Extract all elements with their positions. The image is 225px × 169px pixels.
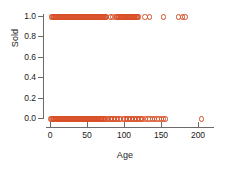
data-point bbox=[119, 14, 124, 19]
data-point bbox=[77, 116, 82, 121]
data-point bbox=[80, 116, 85, 121]
x-axis-tick bbox=[198, 122, 199, 128]
data-point bbox=[152, 116, 157, 121]
data-point bbox=[61, 116, 66, 121]
data-point bbox=[92, 116, 97, 121]
data-point bbox=[73, 14, 78, 19]
data-point bbox=[118, 14, 123, 19]
data-point bbox=[56, 116, 61, 121]
data-point bbox=[82, 116, 87, 121]
data-point bbox=[62, 14, 67, 19]
data-point bbox=[176, 14, 181, 19]
data-point bbox=[123, 14, 128, 19]
data-point bbox=[130, 14, 135, 19]
data-point bbox=[98, 14, 103, 19]
data-point bbox=[95, 14, 100, 19]
data-point bbox=[52, 14, 57, 19]
data-point bbox=[90, 14, 95, 19]
data-point bbox=[64, 116, 69, 121]
data-point bbox=[116, 14, 121, 19]
data-point bbox=[84, 14, 89, 19]
data-point bbox=[85, 14, 90, 19]
data-point bbox=[116, 116, 121, 121]
data-point bbox=[94, 14, 99, 19]
y-axis-tick bbox=[38, 77, 44, 78]
data-point bbox=[68, 14, 73, 19]
y-axis-tick bbox=[38, 98, 44, 99]
data-point bbox=[127, 14, 132, 19]
data-point bbox=[128, 116, 133, 121]
data-point bbox=[63, 14, 68, 19]
data-point bbox=[96, 116, 101, 121]
data-point bbox=[110, 14, 115, 19]
data-point bbox=[67, 116, 72, 121]
data-point bbox=[96, 14, 101, 19]
data-point bbox=[130, 116, 135, 121]
data-point bbox=[97, 14, 102, 19]
data-point bbox=[85, 14, 90, 19]
data-point bbox=[86, 14, 91, 19]
data-point bbox=[112, 116, 117, 121]
data-point bbox=[124, 116, 129, 121]
data-point bbox=[108, 116, 113, 121]
y-axis-tick-label: 0.0 bbox=[8, 114, 36, 122]
data-point bbox=[127, 14, 132, 19]
x-axis-tick-label: 200 bbox=[183, 131, 213, 140]
data-point bbox=[90, 116, 95, 121]
data-point bbox=[121, 116, 126, 121]
data-point bbox=[68, 14, 73, 19]
data-point bbox=[76, 116, 81, 121]
x-axis-tick bbox=[124, 122, 125, 128]
data-point bbox=[64, 14, 69, 19]
data-point bbox=[104, 14, 109, 19]
data-point bbox=[136, 14, 141, 19]
x-axis-tick bbox=[87, 122, 88, 128]
data-point bbox=[101, 14, 106, 19]
data-point bbox=[53, 14, 58, 19]
data-point bbox=[62, 116, 67, 121]
data-point bbox=[71, 14, 76, 19]
data-point bbox=[99, 14, 104, 19]
data-point bbox=[93, 14, 98, 19]
data-point bbox=[150, 116, 155, 121]
data-point bbox=[53, 116, 58, 121]
data-point bbox=[100, 116, 105, 121]
data-point bbox=[103, 14, 108, 19]
data-point bbox=[92, 14, 97, 19]
data-point bbox=[147, 14, 152, 19]
data-point bbox=[133, 14, 138, 19]
y-axis-tick-label: 0.2 bbox=[8, 94, 36, 102]
data-point bbox=[95, 116, 100, 121]
data-point bbox=[87, 116, 92, 121]
plot-area bbox=[0, 0, 225, 169]
data-point bbox=[53, 14, 58, 19]
data-point bbox=[86, 116, 91, 121]
y-axis-tick bbox=[38, 118, 44, 119]
data-point bbox=[110, 116, 115, 121]
data-point bbox=[58, 116, 63, 121]
data-point bbox=[91, 14, 96, 19]
data-point bbox=[96, 14, 101, 19]
data-point bbox=[75, 116, 80, 121]
data-point bbox=[81, 14, 86, 19]
data-point bbox=[60, 14, 65, 19]
data-point bbox=[73, 116, 78, 121]
data-point bbox=[129, 14, 134, 19]
data-point bbox=[90, 116, 95, 121]
data-point bbox=[85, 116, 90, 121]
data-point bbox=[99, 14, 104, 19]
data-point bbox=[88, 14, 93, 19]
data-point bbox=[49, 116, 54, 121]
y-axis-tick-label: 1.0 bbox=[8, 12, 36, 20]
data-point bbox=[65, 14, 70, 19]
y-axis-tick-label: 0.8 bbox=[8, 32, 36, 40]
data-point bbox=[76, 14, 81, 19]
data-point bbox=[90, 14, 95, 19]
data-point bbox=[49, 14, 54, 19]
data-point bbox=[68, 116, 73, 121]
x-axis-tick-label: 150 bbox=[146, 131, 176, 140]
data-point bbox=[113, 116, 118, 121]
data-point bbox=[79, 116, 84, 121]
y-axis-tick bbox=[38, 16, 44, 17]
data-point bbox=[99, 116, 104, 121]
